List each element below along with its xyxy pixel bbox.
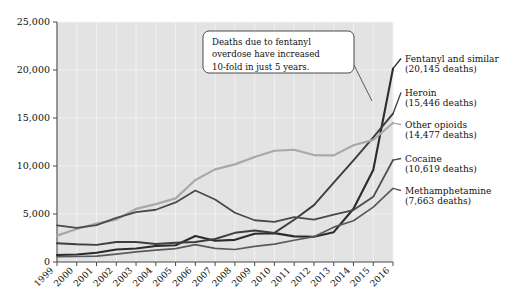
x-axis-tick-label: 2009 — [230, 265, 253, 288]
series-label-other-opioids: Other opioids — [405, 120, 467, 130]
series-labels: Fentanyl and similar(20,145 deaths)Heroi… — [393, 54, 499, 206]
callout-text-line: overdose have increased — [212, 49, 320, 59]
callout-text-line: 10-fold in just 5 years. — [212, 62, 310, 72]
y-axis-tick-label: 10,000 — [17, 160, 50, 171]
series-label-fentanyl-and-similar: Fentanyl and similar — [405, 54, 499, 64]
series-value-methamphetamine: (7,663 deaths) — [405, 196, 471, 206]
y-axis: 05,00010,00015,00020,00025,000 — [17, 16, 57, 267]
series-value-other-opioids: (14,477 deaths) — [405, 130, 477, 140]
opioid-overdose-deaths-line-chart: 05,00010,00015,00020,00025,0001999200020… — [0, 0, 524, 308]
x-axis-tick-label: 2013 — [309, 265, 332, 288]
x-axis-tick-label: 2012 — [289, 265, 312, 288]
y-axis-tick-label: 20,000 — [17, 64, 50, 75]
x-axis-tick-label: 2000 — [52, 265, 75, 288]
x-axis: 1999200020012002200320042005200620072008… — [32, 262, 393, 289]
series-value-heroin: (15,446 deaths) — [405, 98, 477, 108]
series-leader-heroin — [393, 93, 401, 114]
x-axis-tick-label: 2008 — [210, 265, 233, 288]
x-axis-tick-label: 2005 — [151, 265, 174, 288]
x-axis-tick-label: 2016 — [368, 265, 391, 288]
callout-text-line: Deaths due to fentanyl — [212, 37, 311, 47]
y-axis-tick-label: 15,000 — [17, 112, 50, 123]
y-axis-tick-label: 5,000 — [23, 208, 50, 219]
x-axis-tick-label: 2010 — [250, 265, 273, 288]
series-value-cocaine: (10,619 deaths) — [405, 164, 477, 174]
chart-figure: 05,00010,00015,00020,00025,0001999200020… — [0, 0, 524, 308]
series-leader-other-opioids — [393, 123, 401, 124]
series-label-cocaine: Cocaine — [405, 154, 442, 164]
x-axis-tick-label: 2003 — [111, 265, 134, 288]
x-axis-tick-label: 2001 — [72, 265, 95, 288]
series-leader-fentanyl-and-similar — [393, 59, 401, 69]
series-leader-cocaine — [393, 159, 401, 161]
x-axis-tick-label: 2015 — [348, 265, 371, 288]
x-axis-tick-label: 2004 — [131, 265, 154, 288]
x-axis-tick-label: 2002 — [91, 265, 114, 288]
x-axis-tick-label: 1999 — [32, 265, 55, 288]
x-axis-tick-label: 2007 — [190, 265, 213, 288]
x-axis-tick-label: 2011 — [269, 265, 292, 288]
x-axis-tick-label: 2006 — [170, 265, 193, 288]
x-axis-tick-label: 2014 — [329, 265, 352, 288]
series-label-heroin: Heroin — [405, 88, 437, 98]
series-label-methamphetamine: Methamphetamine — [405, 186, 491, 196]
series-value-fentanyl-and-similar: (20,145 deaths) — [405, 64, 477, 74]
y-axis-tick-label: 25,000 — [17, 16, 50, 27]
series-leader-methamphetamine — [393, 188, 401, 190]
